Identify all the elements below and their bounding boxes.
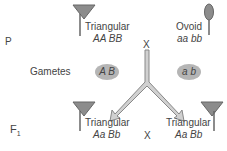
f1-label-main: F [10, 123, 17, 135]
cross-symbol: X [143, 40, 150, 50]
f1-1-genotype: Aa Bb [93, 130, 120, 140]
gamete-2: a b [177, 64, 201, 80]
cross-arrows [110, 50, 184, 121]
f1-2-phenotype: Triangular [166, 118, 211, 128]
f1-label-subscript: 1 [17, 130, 21, 137]
gamete-1: A B [95, 64, 119, 80]
parent-1-phenotype: Triangular [85, 22, 130, 32]
parent-1-genotype: AA BB [93, 34, 122, 44]
f1-1-phenotype: Triangular [85, 118, 130, 128]
p-generation-label: P [5, 37, 12, 47]
parent-2-phenotype: Ovoid [176, 22, 202, 32]
ovoid-pod-icon [205, 4, 214, 35]
f1-generation-label: F1 [10, 124, 21, 139]
f1-cross-symbol: X [144, 131, 151, 141]
parent-2-genotype: aa bb [177, 34, 202, 44]
f1-2-genotype: Aa Bb [175, 130, 202, 140]
gametes-label: Gametes [30, 67, 71, 77]
